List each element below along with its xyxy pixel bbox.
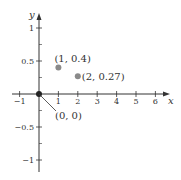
x-tick-label: 5 [133, 97, 138, 106]
scatter-chart: −112345610.5−0.5−1 (0, 0)(1, 0.4)(2, 0.2… [0, 0, 181, 180]
y-tick-label: −0.5 [15, 123, 34, 132]
x-tick-label: 3 [95, 97, 100, 106]
y-axis-label: y [28, 9, 35, 20]
y-tick-label: −1 [22, 156, 34, 165]
y-tick-label: 0.5 [21, 57, 34, 66]
data-points: (0, 0)(1, 0.4)(2, 0.27) [36, 53, 125, 121]
y-tick-label: 1 [29, 24, 34, 33]
x-tick-label: −1 [14, 97, 26, 106]
x-tick-label: 6 [153, 97, 158, 106]
axes [12, 13, 170, 172]
x-axis-label: x [168, 95, 174, 106]
leader-line [39, 94, 56, 111]
point-label: (1, 0.4) [54, 53, 91, 64]
data-point [55, 65, 61, 71]
point-label: (2, 0.27) [82, 71, 125, 82]
point-label: (0, 0) [55, 110, 82, 121]
x-tick-label: 2 [75, 97, 80, 106]
x-tick-label: 4 [114, 97, 119, 106]
x-tick-label: 1 [56, 97, 61, 106]
data-point [75, 73, 81, 79]
y-axis-arrow-icon [37, 13, 42, 20]
